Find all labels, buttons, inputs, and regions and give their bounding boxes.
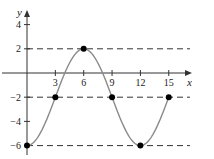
y-tick-label: −4 xyxy=(10,116,21,127)
point-marker xyxy=(109,94,115,100)
dashed-reference-lines xyxy=(27,49,190,146)
x-tick-label: 6 xyxy=(81,77,86,88)
y-tick-label: −6 xyxy=(10,140,21,151)
point-marker xyxy=(81,46,87,52)
y-tick-label: 2 xyxy=(16,43,21,54)
y-tick-label: 4 xyxy=(16,19,21,30)
point-marker xyxy=(137,143,143,149)
point-marker xyxy=(52,94,58,100)
x-tick-label: 15 xyxy=(164,77,174,88)
y-axis-label: y xyxy=(16,6,22,18)
point-marker xyxy=(24,143,30,149)
point-marker xyxy=(166,94,172,100)
x-axis-label: x xyxy=(186,76,192,88)
x-tick-label: 3 xyxy=(53,77,58,88)
x-tick-label: 12 xyxy=(135,77,145,88)
x-tick-label: 9 xyxy=(110,77,115,88)
chart-canvas: x y 3691215 42−2−4−6 xyxy=(0,0,214,159)
y-axis-arrow-icon xyxy=(24,10,30,17)
y-tick-label: −2 xyxy=(10,92,21,103)
